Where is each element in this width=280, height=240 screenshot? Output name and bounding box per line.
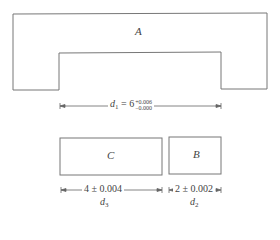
d1-tol-minus: −0.000 [135, 105, 152, 111]
d1-dimension-label: d1 = 6+0.006−0.000 [108, 98, 154, 111]
d3-value-label: 4 ± 0.004 [82, 183, 124, 194]
d3-sub: 3 [105, 201, 109, 209]
d1-tolerance: +0.006−0.000 [135, 99, 152, 111]
shape-a-label: A [135, 25, 142, 37]
d2-var-label: d2 [188, 196, 201, 209]
shape-c-label: C [107, 149, 114, 161]
d2-value-label: 2 ± 0.002 [173, 183, 215, 194]
d2-sub: 2 [195, 201, 199, 209]
d3-var-label: d3 [98, 196, 111, 209]
d1-eq: = 6 [119, 98, 135, 109]
shape-b-label: B [193, 148, 200, 160]
